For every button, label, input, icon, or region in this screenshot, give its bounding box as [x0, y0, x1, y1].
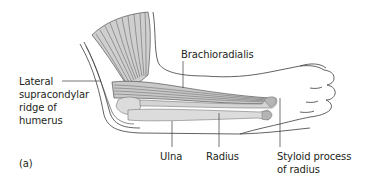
panel-label: (a)	[19, 157, 33, 170]
label-styloid-process: Styloid process of radius	[277, 150, 351, 176]
label-brachioradialis: Brachioradialis	[181, 48, 254, 61]
label-ulna: Ulna	[160, 150, 182, 163]
anatomy-figure: Lateral supracondylar ridge of humerus B…	[0, 0, 379, 187]
label-lateral-supracondylar-ridge: Lateral supracondylar ridge of humerus	[19, 75, 89, 127]
label-radius: Radius	[206, 150, 239, 163]
